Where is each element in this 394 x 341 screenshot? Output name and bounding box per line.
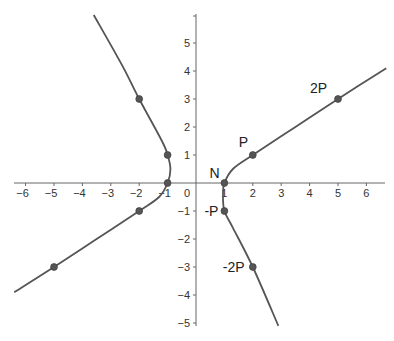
y-tick-label: 5 (184, 37, 190, 49)
y-tick-label: 3 (184, 93, 190, 105)
elliptic-curve-plot: −6−5−4−3−2−1123456−5−4−3−2−1123450 NP2P-… (0, 0, 394, 341)
point-label: 2P (310, 80, 327, 96)
axes (14, 14, 385, 326)
y-tick-label: −4 (177, 289, 190, 301)
y-tick-label: 2 (184, 121, 190, 133)
point-label: -2P (223, 259, 245, 275)
axis-ticks: −6−5−4−3−2−1123456−5−4−3−2−1123450 (16, 16, 369, 329)
curve-point (164, 180, 171, 187)
y-tick-label: −1 (177, 205, 190, 217)
y-tick-label: 4 (184, 65, 190, 77)
curve-branches (14, 15, 386, 326)
point-label: P (239, 134, 248, 150)
point-label: N (209, 165, 219, 181)
curve-point (249, 152, 256, 159)
right-branch-curve (223, 68, 386, 326)
curve-point (136, 96, 143, 103)
y-tick-label: −5 (177, 317, 190, 329)
curve-point (335, 96, 342, 103)
x-tick-label: 6 (363, 187, 369, 199)
curve-point (221, 180, 228, 187)
x-tick-label: 5 (335, 187, 341, 199)
point-label: -P (204, 203, 218, 219)
curve-point (51, 264, 58, 271)
curve-point (249, 264, 256, 271)
left-branch-curve (14, 15, 170, 292)
x-tick-label: −4 (73, 187, 86, 199)
x-tick-label: −3 (102, 187, 115, 199)
x-tick-label: −2 (130, 187, 143, 199)
x-tick-label: 2 (250, 187, 256, 199)
y-tick-label: 1 (184, 149, 190, 161)
curve-point (164, 152, 171, 159)
y-tick-label: −3 (177, 261, 190, 273)
y-tick-label: −2 (177, 233, 190, 245)
x-tick-label: −5 (45, 187, 58, 199)
origin-label: 0 (184, 187, 190, 199)
x-tick-label: 3 (278, 187, 284, 199)
curve-point (221, 208, 228, 215)
curve-point (136, 208, 143, 215)
x-tick-label: −6 (16, 187, 29, 199)
x-tick-label: 4 (307, 187, 313, 199)
